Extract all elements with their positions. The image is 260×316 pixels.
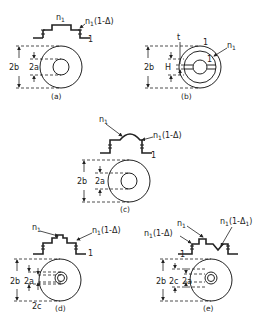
label-a-1: 1 bbox=[88, 35, 93, 44]
label-e-n1-core: n1 bbox=[177, 219, 186, 229]
dim-d-2b: 2b bbox=[10, 277, 20, 286]
caption-e: (e) bbox=[203, 304, 214, 313]
dim-e-2c: 2c bbox=[169, 277, 179, 286]
circle-d-inner bbox=[58, 275, 65, 282]
label-d-n1-cladding: n1(1-Δ) bbox=[92, 226, 121, 236]
circle-b-core bbox=[193, 60, 207, 74]
dim-b-H: H bbox=[165, 63, 171, 72]
circle-a-core bbox=[53, 59, 69, 75]
dim-e-2b: 2b bbox=[156, 277, 166, 286]
profile-c bbox=[100, 134, 152, 153]
profile-d bbox=[33, 235, 86, 254]
label-e-n1-left: n1(1-Δ) bbox=[144, 229, 173, 239]
circle-a-outer bbox=[40, 46, 82, 88]
panel-a: n1 n1(1-Δ) 1 2b 2a (a) bbox=[9, 13, 114, 101]
label-c-n1-cladding: n1(1-Δ) bbox=[153, 131, 182, 141]
circle-d-outer bbox=[39, 259, 81, 301]
circle-b-outer bbox=[179, 46, 221, 88]
circle-e-outer bbox=[190, 259, 232, 301]
label-c-n1: n1 bbox=[99, 115, 108, 125]
label-e-1: 1 bbox=[180, 250, 185, 259]
caption-d: (d) bbox=[55, 304, 66, 313]
panel-d: n1 n1(1-Δ) 1 2b 2a 2c (d) bbox=[10, 223, 121, 313]
label-b-ring-1: 1 bbox=[203, 38, 208, 47]
label-a-n1-cladding: n1(1-Δ) bbox=[85, 17, 114, 27]
caption-b: (b) bbox=[181, 92, 192, 101]
dim-c-2a: 2a bbox=[95, 177, 105, 186]
dim-a-2b: 2b bbox=[9, 63, 19, 72]
dim-d-2c: 2c bbox=[32, 302, 42, 311]
label-b-t: t bbox=[177, 33, 180, 42]
circle-e-inner bbox=[208, 275, 215, 282]
caption-a: (a) bbox=[51, 92, 62, 101]
panel-e: n1(1-Δ) n1 n1(1-Δ1) 1 2b 2c 2a (e) bbox=[144, 217, 252, 313]
panel-b: t 1 n1 1 2b H (b) bbox=[144, 33, 236, 101]
label-c-1: 1 bbox=[151, 151, 156, 160]
circle-c-core bbox=[121, 173, 137, 189]
dim-e-2a: 2a bbox=[182, 277, 192, 286]
label-a-n1: n1 bbox=[56, 13, 65, 23]
circle-c-outer bbox=[108, 160, 150, 202]
label-e-n1-right: n1(1-Δ1) bbox=[220, 217, 252, 227]
label-d-1: 1 bbox=[88, 249, 93, 258]
circle-e-core bbox=[205, 272, 217, 284]
panel-c: n1 n1(1-Δ) 1 2b 2a (c) bbox=[77, 115, 182, 214]
label-b-inner-1: 1 bbox=[207, 55, 212, 64]
label-d-n1: n1 bbox=[32, 223, 41, 233]
fiber-profiles-diagram: n1 n1(1-Δ) 1 2b 2a (a) bbox=[0, 0, 260, 316]
caption-c: (c) bbox=[120, 205, 130, 214]
dim-a-2a: 2a bbox=[29, 63, 39, 72]
label-b-n1: n1 bbox=[227, 41, 236, 51]
dim-b-2b: 2b bbox=[144, 63, 154, 72]
dim-d-2a: 2a bbox=[24, 277, 34, 286]
dim-c-2b: 2b bbox=[77, 177, 87, 186]
